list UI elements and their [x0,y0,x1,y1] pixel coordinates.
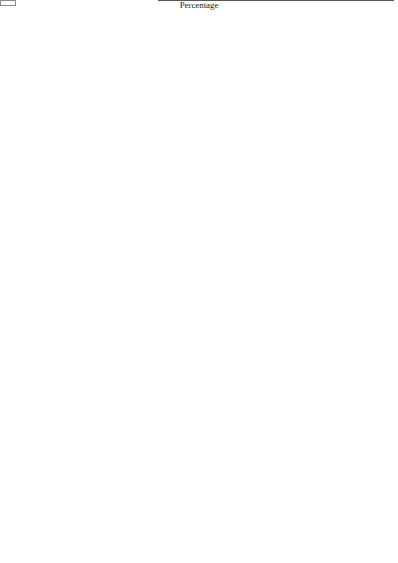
chart-legend [0,0,16,6]
education-attainment-bar-chart: Percentage [0,0,398,563]
x-axis-title: Percentage [0,0,398,10]
